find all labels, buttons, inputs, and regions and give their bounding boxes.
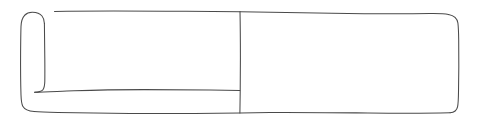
right-panel[interactable] [240,12,459,113]
sketch-drawing [0,0,480,128]
panel-divider[interactable] [240,12,241,113]
left-panel[interactable] [27,12,240,113]
wireframe-canvas [0,0,480,128]
